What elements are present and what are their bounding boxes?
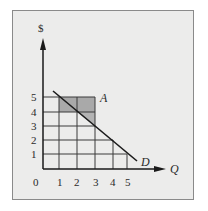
x-tick-1: 1 xyxy=(57,176,63,188)
x-axis-label: Q xyxy=(170,162,179,176)
y-tick-4: 4 xyxy=(31,106,37,118)
x-tick-5: 5 xyxy=(125,176,131,188)
y-tick-2: 2 xyxy=(31,134,37,146)
y-tick-3: 3 xyxy=(31,120,37,132)
y-axis-arrow-icon xyxy=(40,38,46,50)
demand-label: D xyxy=(140,155,150,169)
y-axis-label: $ xyxy=(38,22,44,34)
x-tick-3: 3 xyxy=(93,176,99,188)
x-tick-4: 4 xyxy=(110,176,116,188)
x-axis-arrow-icon xyxy=(154,166,166,172)
x-tick-2: 2 xyxy=(74,176,80,188)
y-tick-5: 5 xyxy=(31,91,37,103)
demand-diagram: $ Q 0 1 2 3 4 5 5 4 3 2 1 A D xyxy=(0,0,208,211)
point-a-label: A xyxy=(99,91,108,105)
y-axis xyxy=(40,38,46,169)
origin-label: 0 xyxy=(33,176,39,188)
y-tick-1: 1 xyxy=(31,148,37,160)
